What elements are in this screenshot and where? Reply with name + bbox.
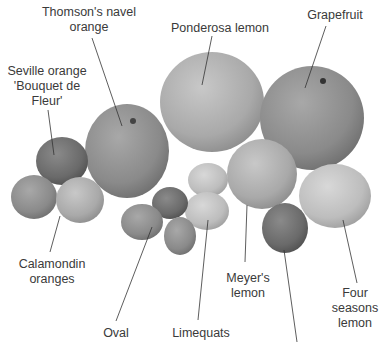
- label-oval: Oval: [96, 326, 136, 341]
- label-line: Grapefruit: [300, 8, 370, 23]
- label-ponderosa-lemon: Ponderosa lemon: [160, 21, 280, 36]
- oval-kumquat-2: [121, 204, 163, 240]
- calamondin-orange-1: [11, 175, 57, 219]
- label-line: lemon: [218, 286, 278, 301]
- label-line: oranges: [12, 272, 92, 287]
- four-seasons-lemon: [299, 164, 371, 228]
- label-limequats: Limequats: [166, 326, 236, 341]
- label-line: Seville orange: [4, 64, 90, 79]
- label-line: Ponderosa lemon: [160, 21, 280, 36]
- limequat-1: [188, 163, 228, 197]
- label-line: Fleur': [4, 94, 90, 109]
- label-calamondin-oranges: Calamondin oranges: [12, 257, 92, 287]
- label-line: Thomson's navel: [34, 5, 144, 20]
- label-line: Four: [330, 286, 380, 301]
- ponderosa-lemon: [160, 52, 264, 152]
- label-line: lemon: [330, 316, 380, 331]
- thomsons-navel-orange: [85, 104, 169, 198]
- calamondin-orange-2: [56, 177, 104, 223]
- label-thomsons-navel-orange: Thomson's navel orange: [34, 5, 144, 35]
- meyers-lemon: [227, 139, 297, 209]
- label-four-seasons-lemon: Four seasons lemon: [330, 286, 380, 331]
- label-line: 'Bouquet de: [4, 79, 90, 94]
- label-meyers-lemon: Meyer's lemon: [218, 271, 278, 301]
- unlabeled-fruit: [262, 203, 308, 253]
- label-line: seasons: [330, 301, 380, 316]
- label-line: Meyer's: [218, 271, 278, 286]
- label-line: orange: [34, 20, 144, 35]
- label-line: Limequats: [166, 326, 236, 341]
- label-grapefruit: Grapefruit: [300, 8, 370, 23]
- label-line: Oval: [96, 326, 136, 341]
- label-line: Calamondin: [12, 257, 92, 272]
- label-seville-orange: Seville orange 'Bouquet de Fleur': [4, 64, 90, 109]
- oval-kumquat-3: [164, 217, 196, 255]
